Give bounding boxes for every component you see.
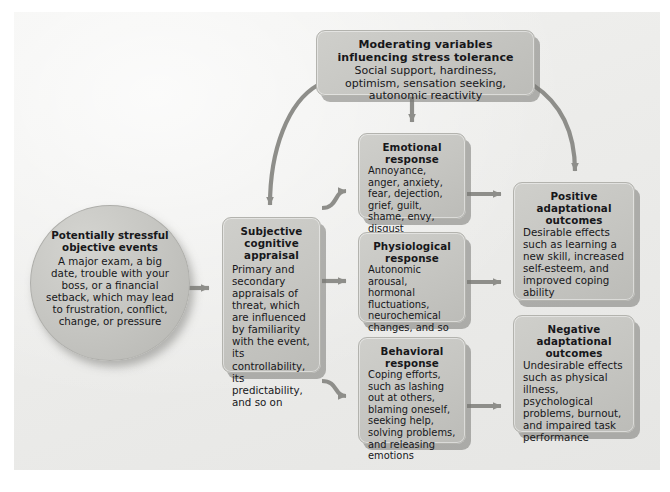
node-body: Desirable effects such as learning a new… [523, 226, 625, 298]
node-emotional-response[interactable]: Emotional response Annoyance, anger, anx… [358, 133, 466, 219]
edge-appraisal-to-emotional [322, 191, 346, 208]
node-title: Behavioral response [368, 345, 456, 369]
node-title: Positive adaptational outcomes [523, 190, 625, 226]
node-body: Coping efforts, such as lashing out at o… [368, 369, 456, 462]
node-title: Negative adaptational outcomes [523, 323, 625, 359]
node-body: Annoyance, anger, anxiety, fear, dejecti… [368, 165, 456, 234]
node-body: Autonomic arousal, hormonal fluctuations… [368, 264, 456, 345]
node-subjective-cognitive-appraisal[interactable]: Subjective cognitive appraisal Primary a… [222, 217, 321, 373]
diagram-canvas: Potentially stressful objective events A… [0, 0, 670, 492]
node-title: Potentially stressful objective events [45, 230, 175, 254]
node-body: Social support, hardiness, optimism, sen… [326, 65, 525, 104]
node-body: A major exam, a big date, trouble with y… [45, 256, 175, 328]
edge-moderating-to-appraisal [270, 85, 318, 205]
node-positive-adaptational-outcomes[interactable]: Positive adaptational outcomes Desirable… [513, 182, 635, 301]
node-title: Emotional response [368, 141, 456, 165]
node-negative-adaptational-outcomes[interactable]: Negative adaptational outcomes Undesirab… [513, 315, 635, 433]
edge-moderating-to-positive [533, 85, 575, 171]
node-body: Undesirable effects such as physical ill… [523, 359, 625, 443]
node-title: Subjective cognitive appraisal [232, 225, 311, 261]
node-body: Primary and secondary appraisals of thre… [232, 263, 311, 408]
node-behavioral-response[interactable]: Behavioral response Coping efforts, such… [358, 337, 466, 444]
node-moderating-variables[interactable]: Moderating variables influencing stress … [316, 30, 535, 96]
node-title: Moderating variables influencing stress … [326, 39, 525, 65]
node-physiological-response[interactable]: Physiological response Autonomic arousal… [358, 232, 466, 323]
edge-appraisal-to-behavioral [322, 381, 346, 396]
node-title: Physiological response [368, 240, 456, 264]
node-potentially-stressful-objective-events[interactable]: Potentially stressful objective events A… [30, 205, 190, 361]
